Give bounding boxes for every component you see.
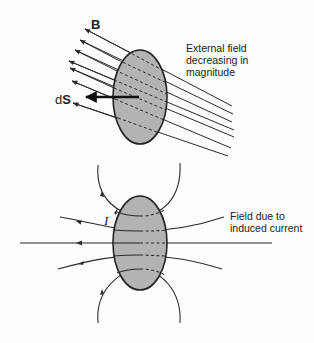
external-field-annotation: External field decreasing in magnitude	[186, 42, 248, 78]
induced-emf-diagram: B dS External field decreasing in magnit…	[0, 0, 314, 343]
current-label: I	[104, 213, 108, 229]
area-element-vector: S	[62, 92, 71, 107]
induced-field-annotation: Field due to induced current	[230, 210, 302, 234]
bottom-figure	[20, 163, 272, 323]
magnetic-field-label: B	[91, 17, 100, 32]
area-element-label: dS	[55, 92, 71, 107]
diagram-drawing	[0, 0, 314, 343]
